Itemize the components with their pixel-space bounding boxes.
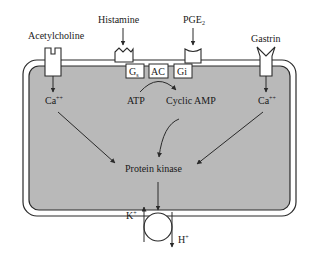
cytoplasm [29,66,290,210]
acetylcholine-label: Acetylcholine [28,30,85,41]
k-plus-label: K+ [126,210,137,221]
acetylcholine-receptor [45,48,61,76]
gastrin-label: Gastrin [251,33,280,44]
parietal-cell-diagram: Acetylcholine Ca++ Histamine Gs AC Gi PG… [0,0,315,271]
proton-pump [144,213,172,241]
svg-text:AC: AC [151,66,165,77]
svg-text:Gi: Gi [177,66,187,77]
pge2-receptor [185,49,201,63]
gastrin-receptor [257,47,275,76]
cyclic-amp-label: Cyclic AMP [166,95,216,106]
histamine-receptor [115,48,133,62]
histamine-label: Histamine [98,14,140,25]
gs-box: Gs [126,64,144,78]
pge2-label: PGE2 [183,14,205,26]
ac-box: AC [149,64,168,78]
h-plus-label: H+ [178,234,189,245]
atp-label: ATP [127,95,145,106]
protein-kinase-label: Protein kinase [125,163,182,174]
gi-box: Gi [174,64,192,78]
